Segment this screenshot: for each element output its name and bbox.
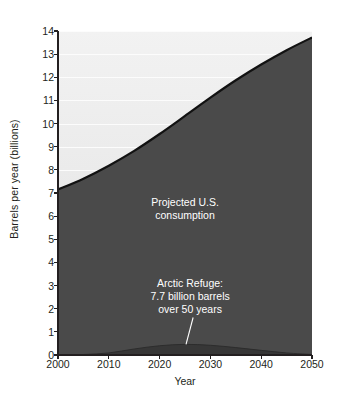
figure-chart-oil-consumption: Barrels per year (billions) 012345678910… bbox=[0, 0, 342, 412]
x-tick-label-2050: 2050 bbox=[300, 359, 323, 370]
x-axis-tick-labels: 200020102020203020402050 bbox=[0, 0, 342, 412]
caption-sliver bbox=[0, 404, 342, 412]
x-tick-label-2020: 2020 bbox=[148, 359, 171, 370]
x-tick-label-2000: 2000 bbox=[46, 359, 69, 370]
x-tick-label-2010: 2010 bbox=[97, 359, 120, 370]
x-tick-label-2030: 2030 bbox=[199, 359, 222, 370]
x-axis-title: Year bbox=[58, 375, 312, 387]
x-tick-label-2040: 2040 bbox=[250, 359, 273, 370]
